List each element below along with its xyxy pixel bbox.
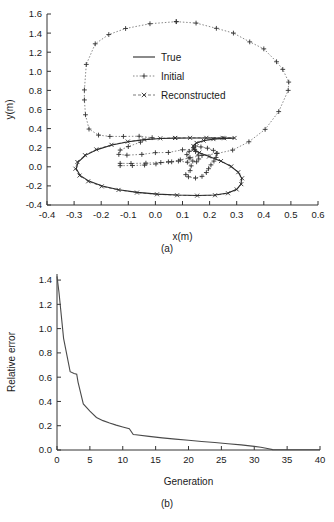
panel-a-svg: -0.4-0.3-0.2-0.10.00.10.20.30.40.50.6-0.…: [0, 0, 334, 262]
y-tick-label: 0.0: [29, 161, 42, 172]
series-reconstructed: [73, 136, 244, 198]
legend-label: Initial: [161, 71, 184, 82]
x-tick-label: 0.2: [203, 209, 216, 220]
y-tick-label: 0.2: [29, 142, 42, 153]
y-tick-label: 1.0: [29, 66, 42, 77]
x-tick-label: 0.6: [311, 209, 324, 220]
y-tick-label: -0.4: [26, 199, 42, 210]
x-tick-label: 25: [216, 454, 227, 465]
x-tick-label: -0.2: [93, 209, 109, 220]
x-tick-label: 30: [249, 454, 260, 465]
y-tick-label: 1.4: [29, 28, 42, 39]
y-tick-label: 1.2: [29, 47, 42, 58]
y-tick-label: 0.4: [39, 396, 52, 407]
y-tick-label: 0.6: [29, 104, 42, 115]
x-tick-label: 0.5: [284, 209, 297, 220]
y-tick-label: 1.0: [39, 323, 52, 334]
y-axis-label: y(m): [4, 100, 15, 120]
series-line-relative-error: [57, 276, 320, 449]
x-tick-label: -0.4: [39, 209, 55, 220]
figure-container: -0.4-0.3-0.2-0.10.00.10.20.30.40.50.6-0.…: [0, 0, 334, 522]
panel-a-trajectory-chart: -0.4-0.3-0.2-0.10.00.10.20.30.40.50.6-0.…: [0, 0, 334, 262]
y-tick-label: 0.8: [29, 85, 42, 96]
x-tick-label: 40: [315, 454, 326, 465]
x-tick-label: 0.3: [230, 209, 243, 220]
panel-a-caption: (a): [0, 243, 334, 254]
x-tick-label: -0.1: [120, 209, 136, 220]
panel-b-error-chart: 05101520253035400.00.20.40.60.81.01.21.4…: [0, 260, 334, 522]
series-markers-reconstructed: [73, 136, 244, 198]
panel-b-svg: 05101520253035400.00.20.40.60.81.01.21.4…: [0, 260, 334, 510]
x-tick-label: -0.3: [66, 209, 82, 220]
y-tick-label: 0.4: [29, 123, 42, 134]
series-line-reconstructed: [75, 138, 242, 196]
x-tick-label: 0.0: [149, 209, 162, 220]
y-tick-label: 0.0: [39, 444, 52, 455]
panel-b-caption: (b): [0, 498, 334, 509]
x-tick-label: 0.1: [176, 209, 189, 220]
x-tick-label: 35: [282, 454, 293, 465]
x-tick-label: 10: [117, 454, 128, 465]
y-tick-label: 0.2: [39, 420, 52, 431]
legend-label: Reconstructed: [161, 90, 225, 101]
y-axis-label: Relative error: [6, 331, 17, 392]
legend: TrueInitialReconstructed: [133, 52, 225, 101]
x-tick-label: 20: [183, 454, 194, 465]
x-axis-label: x(m): [173, 231, 193, 242]
x-tick-label: 15: [150, 454, 161, 465]
y-tick-label: -0.2: [26, 180, 42, 191]
y-tick-label: 1.6: [29, 8, 42, 19]
y-tick-label: 1.4: [39, 274, 52, 285]
y-tick-label: 0.8: [39, 347, 52, 358]
legend-label: True: [161, 52, 182, 63]
legend-marker-plus-icon: [141, 73, 146, 78]
x-tick-label: 0: [54, 454, 59, 465]
y-tick-label: 0.6: [39, 372, 52, 383]
x-tick-label: 5: [87, 454, 92, 465]
x-tick-label: 0.4: [257, 209, 270, 220]
y-tick-label: 1.2: [39, 299, 52, 310]
x-axis-label: Generation: [164, 476, 213, 487]
